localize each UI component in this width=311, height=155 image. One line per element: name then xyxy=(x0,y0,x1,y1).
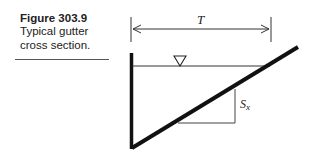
gutter-cross-slope xyxy=(132,47,298,148)
slope-triangle xyxy=(178,89,235,123)
water-surface-icon xyxy=(174,56,186,66)
top-width-label: T xyxy=(197,12,205,27)
gutter-diagram: T Sx xyxy=(0,0,311,155)
top-width-dimension: T xyxy=(131,12,271,42)
slope-label: Sx xyxy=(240,97,250,112)
